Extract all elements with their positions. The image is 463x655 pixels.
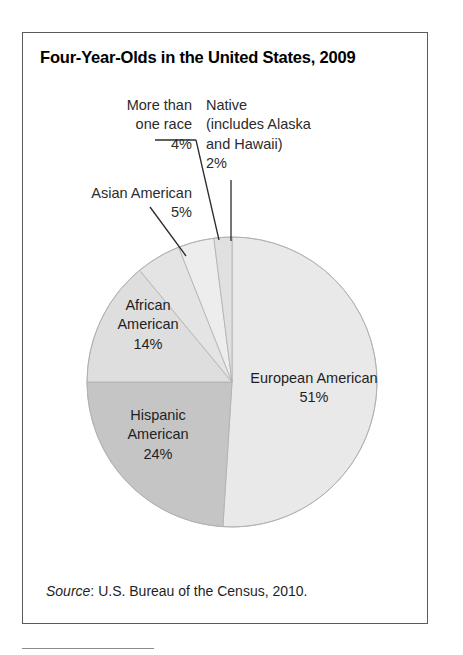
slice-label-african-american: African American 14%: [92, 296, 204, 354]
slice-label-asian-american: Asian American 5%: [32, 184, 192, 223]
slice-label-european-american: European American 51%: [238, 369, 390, 408]
source-text: : U.S. Bureau of the Census, 2010.: [90, 583, 307, 599]
slice-label-native: Native (includes Alaska and Hawaii) 2%: [206, 96, 356, 174]
slice-label-hispanic-american: Hispanic American 24%: [102, 406, 214, 464]
source-label: Source: [46, 583, 90, 599]
bottom-divider: [22, 648, 154, 649]
slice-label-more-than-one-race: More than one race 4%: [60, 96, 192, 154]
page-title: Four-Year-Olds in the United States, 200…: [40, 48, 420, 67]
source-note: Source: U.S. Bureau of the Census, 2010.: [46, 583, 308, 599]
